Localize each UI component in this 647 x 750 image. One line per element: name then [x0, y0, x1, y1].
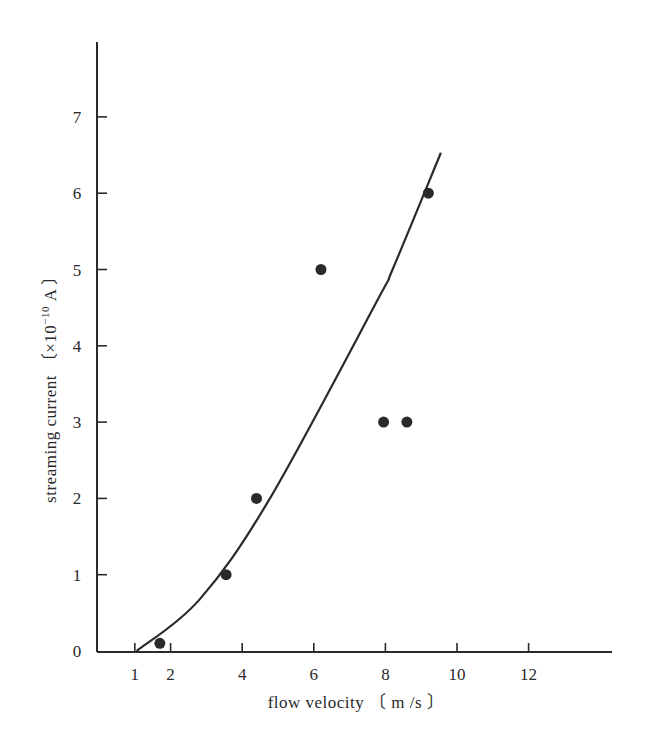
y-axis-title-exponent: −10: [39, 306, 51, 325]
chart: 124681012 01234567 flow velocity 〔 m /s …: [0, 0, 647, 750]
x-tick-label: 12: [520, 665, 537, 684]
y-axis-title: streaming current 〔×10−10 A 〕: [39, 267, 60, 503]
fit-curve-layer: [137, 153, 441, 651]
y-tick-label: 1: [73, 566, 82, 585]
y-tick-label: 2: [73, 489, 82, 508]
y-axis-title-unit: A 〕: [41, 267, 60, 306]
figure-caption-cropped: [190, 728, 570, 750]
data-point: [401, 417, 412, 428]
x-tick-label: 4: [238, 665, 247, 684]
y-tick-label: 6: [73, 184, 82, 203]
fit-curve: [137, 153, 441, 651]
data-point: [315, 264, 326, 275]
y-tick-label: 4: [73, 337, 82, 356]
y-tick-label: 7: [73, 108, 82, 127]
y-ticks: 01234567: [73, 108, 107, 661]
data-point: [154, 638, 165, 649]
x-axis-title: flow velocity 〔 m /s 〕: [268, 693, 445, 712]
x-tick-label: 1: [131, 665, 140, 684]
data-point: [251, 493, 262, 504]
data-point: [423, 188, 434, 199]
data-point: [221, 569, 232, 580]
x-ticks: 124681012: [131, 643, 538, 684]
x-tick-label: 10: [449, 665, 466, 684]
x-tick-label: 6: [310, 665, 319, 684]
data-points: [154, 188, 434, 649]
y-tick-label: 5: [73, 261, 82, 280]
x-tick-label: 8: [381, 665, 390, 684]
y-tick-label: 0: [73, 642, 82, 661]
y-tick-label: 3: [73, 413, 82, 432]
y-axis-title-main: streaming current 〔×10: [41, 325, 60, 503]
axes: [97, 42, 612, 652]
data-point: [378, 417, 389, 428]
x-tick-label: 2: [166, 665, 175, 684]
